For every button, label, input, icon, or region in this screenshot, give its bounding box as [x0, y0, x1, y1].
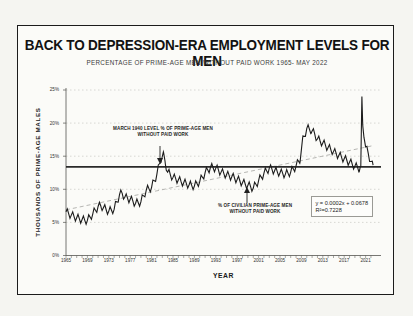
x-tick-label: 2005: [275, 258, 285, 263]
chart-subtitle: PERCENTAGE OF PRIME-AGE MEN WITHOUT PAID…: [17, 59, 397, 66]
x-tick-label: 2013: [318, 258, 328, 263]
y-tick-label: 20%: [45, 121, 59, 126]
y-tick-label: 10%: [45, 187, 59, 192]
x-tick-label: 1985: [168, 258, 178, 263]
trendline-equation: y = 0.0002x + 0.0678: [316, 200, 373, 207]
x-tick-label: 2017: [339, 258, 349, 263]
x-tick-label: 1969: [82, 258, 92, 263]
x-tick-label: 2009: [296, 258, 306, 263]
y-tick-label: 15%: [45, 154, 59, 159]
annotation-1940-line2: WITHOUT PAID WORK: [113, 132, 213, 138]
annotation-civilian: % OF CIVILIAN PRIME-AGE MEN WITHOUT PAID…: [218, 203, 292, 215]
x-tick-label: 1973: [104, 258, 114, 263]
annotation-civilian-line1: % OF CIVILIAN PRIME-AGE MEN: [218, 203, 292, 209]
annotation-1940-level: MARCH 1940 LEVEL % OF PRIME-AGE MEN WITH…: [113, 126, 213, 138]
annotation-arrow-down-head: [157, 158, 163, 164]
annotation-arrow-up-head: [244, 187, 250, 193]
x-tick-label: 1965: [61, 258, 71, 263]
x-tick-label: 1977: [125, 258, 135, 263]
trendline-equation-box: y = 0.0002x + 0.0678 R²=0.7228: [311, 196, 373, 217]
trendline-r-squared: R²=0.7228: [316, 207, 373, 214]
y-tick-label: 5%: [45, 220, 59, 225]
y-tick-label: 0%: [45, 253, 59, 258]
x-tick-label: 2001: [253, 258, 263, 263]
x-tick-label: 1993: [211, 258, 221, 263]
x-tick-label: 2021: [360, 258, 370, 263]
y-tick-label: 25%: [45, 87, 59, 92]
annotation-civilian-line2: WITHOUT PAID WORK: [218, 209, 292, 215]
x-axis-title: YEAR: [66, 272, 381, 279]
x-tick-label: 1997: [232, 258, 242, 263]
annotation-1940-line1: MARCH 1940 LEVEL % OF PRIME-AGE MEN: [113, 126, 213, 132]
x-tick-label: 1981: [146, 258, 156, 263]
scanned-page: BACK TO DEPRESSION-ERA EMPLOYMENT LEVELS…: [0, 0, 413, 316]
y-axis-title: THOUSANDS OF PRIME-AGE MALES: [34, 107, 41, 236]
x-tick-label: 1989: [189, 258, 199, 263]
